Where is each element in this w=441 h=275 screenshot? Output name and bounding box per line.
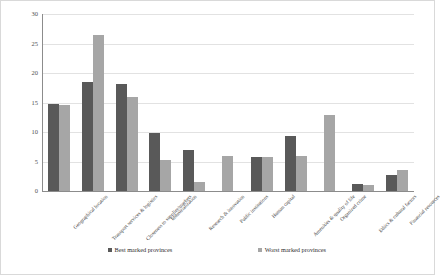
- y-tick-label-30: 30: [18, 11, 38, 18]
- bar-group: [42, 14, 76, 191]
- y-tick-label-15: 15: [18, 100, 38, 107]
- bar-worst: [194, 182, 205, 191]
- bar-worst: [160, 160, 171, 191]
- bar-group: [76, 14, 110, 191]
- x-tick-label: Research & innovation: [208, 194, 245, 231]
- bar-worst: [59, 105, 70, 191]
- chart-legend: Best marked provinces Worst marked provi…: [0, 246, 434, 253]
- y-tick-label-10: 10: [18, 129, 38, 136]
- y-tick-label-0: 0: [18, 188, 38, 195]
- bar-best: [149, 133, 160, 191]
- legend-item-best: Best marked provinces: [108, 246, 172, 253]
- bar-best: [82, 82, 93, 191]
- bar-group: [313, 14, 347, 191]
- legend-item-worst: Worst marked provinces: [258, 246, 326, 253]
- bar-best: [352, 184, 363, 191]
- bar-best: [48, 104, 59, 191]
- y-tick-label-5: 5: [18, 159, 38, 166]
- bar-worst: [127, 97, 138, 191]
- x-tick-label: Human capital: [271, 194, 296, 219]
- bar-group: [143, 14, 177, 191]
- legend-swatch-worst-icon: [258, 248, 262, 252]
- bar-group: [279, 14, 313, 191]
- legend-swatch-best-icon: [108, 248, 112, 252]
- bar-best: [116, 84, 127, 191]
- bar-group: [380, 14, 414, 191]
- bar-group: [177, 14, 211, 191]
- legend-label-best: Best marked provinces: [114, 246, 172, 253]
- bar-group: [211, 14, 245, 191]
- x-tick-label: Ethics & cultural factors: [378, 194, 418, 234]
- bar-worst: [363, 185, 374, 191]
- bar-best: [251, 157, 262, 191]
- bar-worst: [397, 170, 408, 191]
- bar-best: [183, 150, 194, 191]
- bar-worst: [324, 115, 335, 191]
- x-axis-line: [42, 191, 414, 192]
- y-tick-label-25: 25: [18, 41, 38, 48]
- bar-group: [245, 14, 279, 191]
- y-tick-label-20: 20: [18, 70, 38, 77]
- x-tick-label: Geographical location: [72, 194, 108, 230]
- bar-worst: [93, 35, 104, 191]
- bar-worst: [222, 156, 233, 191]
- plot-area: [42, 14, 414, 191]
- bar-group: [110, 14, 144, 191]
- bar-best: [285, 136, 296, 191]
- bar-worst: [296, 156, 307, 191]
- bar-worst: [262, 157, 273, 191]
- bar-group: [346, 14, 380, 191]
- bar-best: [386, 175, 397, 191]
- legend-label-worst: Worst marked provinces: [265, 246, 326, 253]
